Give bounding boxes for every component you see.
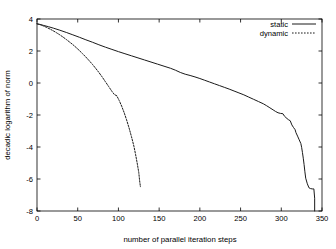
x-tick-label: 300 [275,214,288,223]
x-tick-label: 350 [316,214,329,223]
x-tick-label: 250 [234,214,247,223]
y-tick-label: 0 [29,79,33,88]
y-tick-label: -8 [26,207,33,216]
x-tick-label: 0 [35,214,39,223]
y-tick-label: 2 [29,47,33,56]
y-tick-label: -6 [26,175,33,184]
x-tick-label: 100 [112,214,125,223]
convergence-line-chart: 050100150200250300350 420-2-4-6-8 static… [0,0,336,249]
y-tick-label: -4 [26,143,33,152]
y-tick-label: -2 [26,111,33,120]
y-tick-label: 4 [29,15,33,24]
x-tick-label: 200 [194,214,207,223]
legend-label-dynamic: dynamic [260,29,288,38]
chart-figure: 050100150200250300350 420-2-4-6-8 static… [0,0,336,249]
legend-label-static: static [270,20,288,29]
y-axis-label: decadic logarithm of norm [3,70,12,160]
x-tick-label: 50 [73,214,81,223]
x-tick-label: 150 [153,214,166,223]
x-axis-label: number of parallel iteration steps [123,235,236,244]
